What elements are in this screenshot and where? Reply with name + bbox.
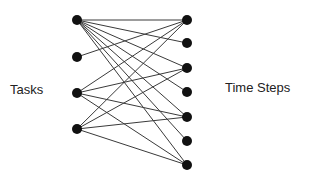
- time-step-node-R5: [182, 112, 192, 122]
- tasks-label: Tasks: [10, 82, 43, 98]
- edge-T1-R7: [77, 20, 187, 165]
- task-node-T3: [72, 88, 82, 98]
- time-step-node-R2: [182, 38, 192, 48]
- time-step-node-R7: [182, 160, 192, 170]
- time-step-node-R3: [182, 63, 192, 73]
- edge-T1-R5: [77, 20, 187, 117]
- time-steps-label: Time Steps: [225, 80, 290, 96]
- task-node-T2: [72, 52, 82, 62]
- edge-T3-R7: [77, 93, 187, 165]
- bipartite-diagram: Tasks Time Steps: [0, 0, 311, 184]
- time-step-node-R4: [182, 87, 192, 97]
- edge-T3-R3: [77, 68, 187, 93]
- edge-T4-R7: [77, 129, 187, 165]
- edge-T1-R3: [77, 20, 187, 68]
- edge-T4-R1: [77, 20, 187, 129]
- task-node-T1: [72, 15, 82, 25]
- edges-group: [77, 20, 187, 165]
- time-step-node-R1: [182, 15, 192, 25]
- edge-T4-R3: [77, 68, 187, 129]
- task-node-T4: [72, 124, 82, 134]
- edge-T3-R5: [77, 93, 187, 117]
- time-step-node-R6: [182, 136, 192, 146]
